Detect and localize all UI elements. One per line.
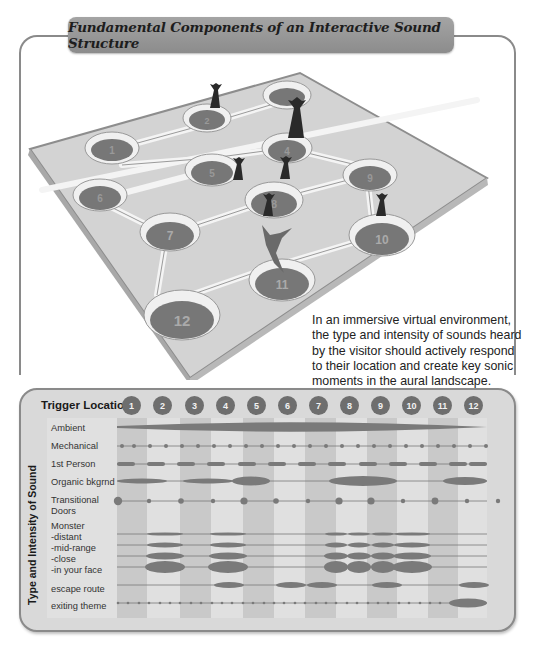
sound-chart-marks bbox=[0, 0, 535, 649]
ambient-band bbox=[117, 422, 487, 432]
